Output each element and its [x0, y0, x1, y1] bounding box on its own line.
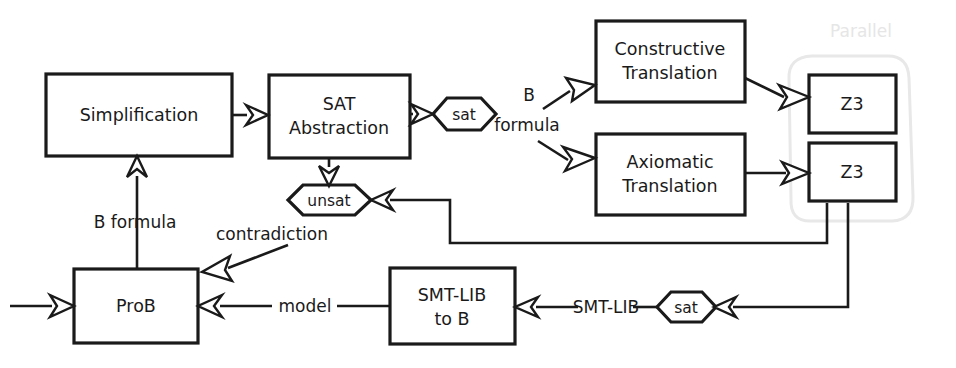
- arrowhead-icon: [714, 297, 736, 317]
- edge-line: [228, 245, 288, 268]
- node-sat-top[interactable]: sat: [433, 98, 496, 130]
- node-unsat[interactable]: unsat: [288, 185, 371, 215]
- node-z3-bottom[interactable]: Z3: [809, 143, 896, 201]
- node-constructive-translation[interactable]: Constructive Translation: [596, 21, 745, 102]
- arrowhead-icon: [319, 166, 339, 186]
- edge-sat-to-constructive-translation: [543, 78, 595, 109]
- edge-label-model: model: [279, 296, 332, 316]
- arrowhead-icon: [246, 105, 268, 125]
- constructive-translation-label-line2: Translation: [621, 63, 717, 83]
- arrowhead-icon: [198, 295, 222, 317]
- constructive-translation-label-line1: Constructive: [615, 39, 726, 59]
- edge-sat-bottom-to-smtlib-to-b: SMT-LIB: [515, 297, 657, 317]
- arrowhead-icon: [127, 156, 147, 177]
- edge-label-formula: formula: [494, 115, 560, 135]
- edge-input-to-prob: [10, 295, 74, 317]
- edge-label-smtlib: SMT-LIB: [573, 297, 640, 317]
- node-sat-abstraction[interactable]: SAT Abstraction: [269, 75, 410, 158]
- arrowhead-icon: [50, 295, 74, 317]
- edge-line: [543, 91, 570, 109]
- node-sat-bottom[interactable]: sat: [657, 292, 716, 322]
- edge-label-b: B: [523, 85, 535, 105]
- edge-prob-to-simplification: B formula: [94, 156, 177, 269]
- workflow-diagram: Parallel Simplification SAT Abstraction …: [0, 0, 956, 368]
- simplification-label: Simplification: [80, 105, 199, 125]
- smtlib-to-b-label-line2: to B: [434, 309, 469, 329]
- edge-sat-abstraction-to-unsat: [319, 158, 339, 186]
- arrowhead-icon: [202, 256, 232, 281]
- prob-label: ProB: [116, 296, 156, 316]
- arrowhead-icon: [782, 162, 809, 184]
- sat-abstraction-label-line2: Abstraction: [289, 118, 389, 138]
- z3-top-label: Z3: [840, 94, 863, 114]
- edge-sat-abstraction-to-sat: [410, 104, 433, 124]
- axiomatic-translation-box[interactable]: [596, 134, 745, 215]
- arrowhead-icon: [566, 78, 595, 101]
- edge-label-contradiction: contradiction: [216, 224, 328, 244]
- edge-constructive-to-z3-top: [745, 78, 809, 109]
- axiomatic-translation-label-line2: Translation: [621, 176, 717, 196]
- z3-bottom-label: Z3: [840, 162, 863, 182]
- arrowhead-icon: [371, 190, 393, 210]
- edge-axiomatic-to-z3-bottom: [745, 162, 809, 184]
- unsat-label: unsat: [307, 192, 350, 210]
- parallel-group-label: Parallel: [830, 21, 892, 41]
- diagram-canvas: Parallel Simplification SAT Abstraction …: [0, 0, 956, 368]
- sat-bottom-label: sat: [674, 299, 698, 317]
- edge-sat-to-axiomatic-translation: [538, 141, 595, 171]
- node-simplification[interactable]: Simplification: [46, 74, 232, 156]
- edge-label-b-formula: B formula: [94, 212, 177, 232]
- edge-line: [538, 141, 568, 160]
- edge-line: [745, 78, 784, 97]
- edge-simplification-to-sat-abstraction: [232, 105, 268, 125]
- smtlib-to-b-box[interactable]: [390, 268, 515, 344]
- node-prob[interactable]: ProB: [74, 269, 198, 343]
- sat-top-label: sat: [452, 106, 476, 124]
- arrowhead-icon: [515, 297, 538, 317]
- sat-abstraction-label-line1: SAT: [323, 94, 356, 114]
- sat-abstraction-box[interactable]: [269, 75, 410, 158]
- smtlib-to-b-label-line1: SMT-LIB: [418, 285, 487, 305]
- edge-line: [733, 203, 848, 307]
- constructive-translation-box[interactable]: [596, 21, 745, 102]
- edge-smtlib-to-b-to-prob: model: [198, 295, 390, 317]
- arrowhead-icon: [411, 104, 433, 124]
- node-z3-top[interactable]: Z3: [809, 75, 896, 133]
- node-axiomatic-translation[interactable]: Axiomatic Translation: [596, 134, 745, 215]
- axiomatic-translation-label-line1: Axiomatic: [626, 152, 713, 172]
- edge-unsat-to-prob-contradiction: contradiction: [202, 224, 328, 281]
- node-smtlib-to-b[interactable]: SMT-LIB to B: [390, 268, 515, 344]
